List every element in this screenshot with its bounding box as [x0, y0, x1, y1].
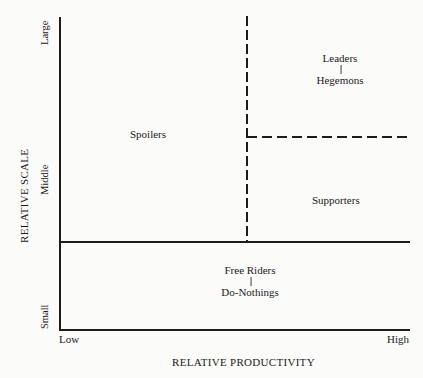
equivalence-separator: ||	[221, 276, 278, 286]
y-tick-small: Small	[39, 304, 50, 329]
region-spoilers: Spoilers	[130, 128, 166, 140]
x-axis-line	[59, 329, 410, 331]
y-tick-large: Large	[39, 21, 50, 45]
small-middle-divider	[59, 241, 410, 243]
region-supporters: Supporters	[312, 194, 360, 206]
region-do-nothings-label: Do-Nothings	[221, 286, 278, 298]
equivalence-separator: ||	[316, 64, 363, 74]
y-axis-title: RELATIVE SCALE	[18, 149, 30, 243]
y-axis-line	[59, 17, 61, 331]
region-leaders-label: Leaders	[316, 52, 363, 64]
scale-productivity-diagram: RELATIVE SCALE Small Middle Large Low Hi…	[0, 0, 423, 378]
region-free-riders-label: Free Riders	[221, 264, 278, 276]
region-free-riders-do-nothings: Free Riders || Do-Nothings	[221, 264, 278, 298]
region-leaders-hegemons: Leaders || Hegemons	[316, 52, 363, 86]
y-tick-middle: Middle	[39, 165, 50, 195]
productivity-dashed-divider	[246, 16, 248, 242]
x-tick-low: Low	[59, 333, 79, 345]
scale-dashed-divider	[247, 136, 410, 138]
region-hegemons-label: Hegemons	[316, 74, 363, 86]
x-tick-high: High	[387, 333, 409, 345]
x-axis-title: RELATIVE PRODUCTIVITY	[172, 356, 315, 368]
